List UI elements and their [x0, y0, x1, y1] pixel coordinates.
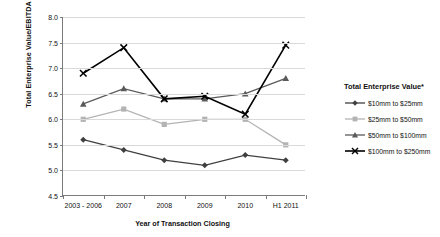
x-axis-tick — [63, 195, 64, 199]
gridline — [63, 145, 305, 146]
series-cross — [80, 42, 289, 118]
x-axis-tick — [185, 195, 186, 199]
legend-item-label: $10mm to $25mm — [368, 100, 423, 107]
legend-item: $10mm to $25mm — [344, 98, 440, 108]
y-axis-title: Total Enterprise Value/EBITDA — [24, 0, 33, 135]
legend-marker-diamond-icon — [344, 98, 366, 108]
legend-marker-cross-icon — [344, 146, 366, 156]
legend-marker-square-icon — [344, 114, 366, 124]
y-axis-tick — [60, 43, 63, 44]
series-diamond — [80, 137, 289, 169]
x-axis-tick-label: 2009 — [197, 202, 213, 209]
x-axis-tick-label: 2008 — [156, 202, 172, 209]
y-axis-tick — [60, 119, 63, 120]
y-axis-tick-label: 6.5 — [48, 90, 58, 97]
gridline — [63, 119, 305, 120]
y-axis-tick-label: 7.5 — [48, 39, 58, 46]
y-axis-tick — [60, 17, 63, 18]
legend: Total Enterprise Value* $10mm to $25mm$2… — [344, 82, 440, 162]
x-axis-tick-label: 2007 — [116, 202, 132, 209]
y-axis-tick-label: 5.0 — [48, 167, 58, 174]
legend-item: $25mm to $50mm — [344, 114, 440, 124]
x-axis-tick — [144, 195, 145, 199]
y-axis-tick — [60, 68, 63, 69]
legend-item-label: $100mm to $250mm — [368, 148, 430, 155]
series-layer — [63, 17, 306, 196]
legend-item-label: $25mm to $50mm — [368, 116, 423, 123]
gridline — [63, 17, 305, 18]
legend-item-label: $50mm to $100mm — [368, 132, 427, 139]
legend-item: $50mm to $100mm — [344, 130, 440, 140]
y-axis-tick-label: 7.0 — [48, 65, 58, 72]
x-axis-title: Year of Transaction Closing — [60, 219, 305, 228]
x-axis-tick-label: 2003 - 2006 — [65, 202, 102, 209]
legend-marker-triangle-icon — [344, 130, 366, 140]
y-axis-tick-label: 4.5 — [48, 193, 58, 200]
gridline — [63, 94, 305, 95]
y-axis-tick — [60, 170, 63, 171]
legend-title: Total Enterprise Value* — [344, 82, 440, 91]
x-axis-tick — [225, 195, 226, 199]
y-axis-tick — [60, 145, 63, 146]
series-triangle — [80, 75, 289, 107]
x-axis-tick-label: 2010 — [237, 202, 253, 209]
y-axis-tick-label: 6.0 — [48, 116, 58, 123]
gridline — [63, 170, 305, 171]
x-axis-tick — [306, 195, 307, 199]
chart-container: Total Enterprise Value/EBITDA 8.07.57.06… — [0, 0, 440, 237]
y-axis-tick-label: 5.5 — [48, 141, 58, 148]
plot-area: 8.07.57.06.56.05.55.04.52003 - 200620072… — [62, 17, 305, 196]
x-axis-tick — [104, 195, 105, 199]
legend-item: $100mm to $250mm — [344, 146, 440, 156]
gridline — [63, 43, 305, 44]
legend-items: $10mm to $25mm$25mm to $50mm$50mm to $10… — [344, 98, 440, 156]
y-axis-tick — [60, 94, 63, 95]
y-axis-tick-label: 8.0 — [48, 14, 58, 21]
x-axis-tick-label: H1 2011 — [273, 202, 299, 209]
gridline — [63, 68, 305, 69]
x-axis-tick — [266, 195, 267, 199]
series-square — [81, 106, 289, 147]
